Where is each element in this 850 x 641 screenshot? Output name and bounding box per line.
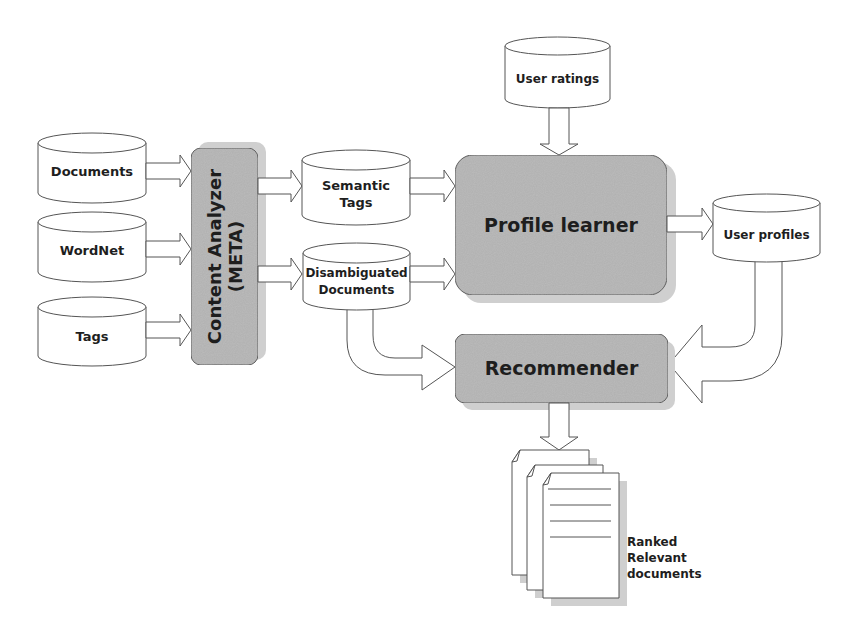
cylinder-wordnet: WordNet xyxy=(38,212,146,282)
documents-label: Documents xyxy=(51,164,134,179)
cylinder-disambiguated-documents: Disambiguated Documents xyxy=(303,243,410,310)
document-page-front xyxy=(543,473,627,606)
disambiguated-label-line2: Documents xyxy=(319,283,395,297)
ranked-documents-label-line3: documents xyxy=(627,567,702,581)
profile-learner-box: Profile learner xyxy=(455,155,676,303)
content-analyzer-box: Content Analyzer (META) xyxy=(191,142,266,365)
arrow-documents-to-analyzer xyxy=(146,155,191,187)
wordnet-label: WordNet xyxy=(60,243,124,258)
arrow-disambiguated-to-profile-learner xyxy=(410,258,455,290)
arrow-wordnet-to-analyzer xyxy=(146,233,191,265)
recommender-box: Recommender xyxy=(455,334,675,410)
content-analyzer-label: Content Analyzer xyxy=(204,169,225,344)
disambiguated-label-line1: Disambiguated xyxy=(305,266,407,280)
recommender-label: Recommender xyxy=(485,357,639,379)
user-ratings-label: User ratings xyxy=(516,72,599,86)
ranked-documents-label-line2: Relevant xyxy=(627,551,687,565)
cylinder-tags: Tags xyxy=(38,297,146,366)
user-profiles-label: User profiles xyxy=(723,228,809,242)
cylinder-user-ratings: User ratings xyxy=(505,37,610,108)
cylinder-semantic-tags: Semantic Tags xyxy=(302,150,410,225)
arrow-user-ratings-to-profile-learner xyxy=(540,108,578,155)
semantic-tags-label-line1: Semantic xyxy=(322,178,390,193)
arrow-disambiguated-to-recommender xyxy=(347,305,455,390)
content-analyzer-sublabel: (META) xyxy=(225,221,246,292)
tags-label: Tags xyxy=(75,329,108,344)
arrow-tags-to-analyzer xyxy=(146,314,191,346)
arrow-user-profiles-to-recommender xyxy=(669,258,782,403)
profile-learner-label: Profile learner xyxy=(484,214,638,236)
ranked-documents-stack xyxy=(512,450,627,606)
arrow-semantic-tags-to-profile-learner xyxy=(410,170,455,202)
arrow-recommender-to-ranked-documents xyxy=(540,403,578,450)
ranked-documents-label-line1: Ranked xyxy=(627,535,677,549)
cylinder-documents: Documents xyxy=(38,133,146,203)
semantic-tags-label-line2: Tags xyxy=(339,195,372,210)
cylinder-user-profiles: User profiles xyxy=(713,194,820,262)
